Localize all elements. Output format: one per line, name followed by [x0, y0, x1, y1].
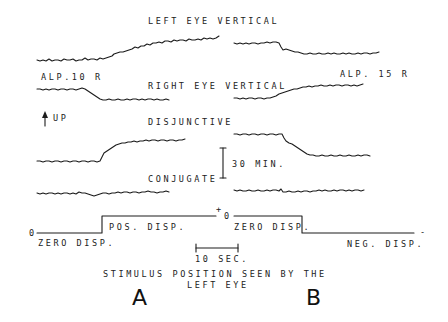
marker-zero-a: 0 [29, 229, 37, 238]
label-alp-a: ALP.10 R [41, 73, 103, 82]
trace-a-left-eye [37, 36, 219, 61]
label-up: UP [53, 114, 68, 123]
trace-b-disjunctive [234, 134, 370, 156]
label-left-eye-vertical: LEFT EYE VERTICAL [148, 17, 279, 26]
label-neg-disp: NEG. DISP. [347, 240, 424, 249]
panel-letter-a: A [132, 287, 147, 309]
label-scale-10-sec: 10 SEC. [195, 255, 249, 264]
label-conjugate: CONJUGATE [148, 175, 217, 184]
marker-minus: - [420, 228, 428, 237]
panel-letter-b: B [306, 287, 321, 309]
label-zero-disp-a: ZERO DISP. [38, 239, 115, 248]
trace-b-left-eye [234, 42, 379, 54]
label-right-eye-vertical: RIGHT EYE VERTICAL [148, 82, 287, 91]
marker-plus: + [216, 205, 224, 214]
marker-zero-b: 0 [224, 212, 232, 221]
label-pos-disp: POS. DISP. [109, 223, 186, 232]
label-alp-b: ALP. 15 R [340, 70, 409, 79]
trace-a-conjugate [37, 191, 169, 196]
eye-movement-figure: LEFT EYE VERTICAL RIGHT EYE VERTICAL DIS… [0, 0, 448, 322]
trace-a-disjunctive [37, 139, 185, 162]
label-scale-30-min: 30 MIN. [232, 160, 286, 169]
caption-line-1: STIMULUS POSITION SEEN BY THE [103, 270, 327, 279]
label-zero-disp-b: ZERO DISP. [234, 223, 311, 232]
label-disjunctive: DISJUNCTIVE [148, 118, 233, 127]
trace-b-conjugate [234, 189, 364, 192]
caption-line-2: LEFT EYE [187, 281, 249, 290]
